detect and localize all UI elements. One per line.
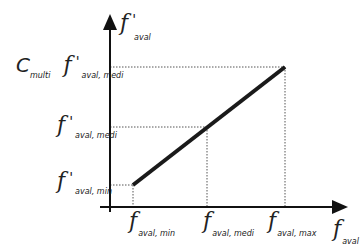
x-axis-title: faval <box>333 218 358 240</box>
x-axis-arrow-icon <box>332 200 348 214</box>
y-axis-arrow-icon <box>103 14 117 30</box>
y-label-min: f'aval, min <box>57 170 110 192</box>
x-label-min: faval, min <box>129 210 174 232</box>
mapping-line <box>133 67 285 185</box>
y-label-max: Cmulti f'aval, medi <box>16 54 121 76</box>
x-label-max: faval, max <box>268 210 315 232</box>
y-label-medi: f'aval, medi <box>57 114 115 136</box>
x-label-medi: faval, medi <box>203 210 253 232</box>
diagram-canvas <box>0 0 363 244</box>
y-axis-title: f'aval <box>120 12 153 34</box>
